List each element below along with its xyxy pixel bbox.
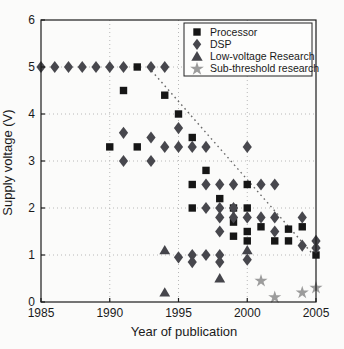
y-tick-label: 0 [28,295,35,309]
figure: 198519901995200020050123456ProcessorDSPL… [0,0,344,349]
x-tick-label: 1990 [96,306,123,320]
legend-label-low-voltage-research: Low-voltage Research [210,50,315,62]
legend: ProcessorDSPLow-voltage ResearchSub-thre… [184,23,319,76]
series-sub-threshold-research [254,274,322,303]
y-tick-label: 1 [28,248,35,262]
y-tick-label: 2 [28,201,35,215]
legend-label-processor: Processor [210,26,258,38]
y-tick-label: 4 [28,107,35,121]
legend-label-sub-threshold-research: Sub-threshold research [210,62,319,74]
y-tick-label: 6 [28,13,35,27]
y-tick-label: 3 [28,154,35,168]
x-tick-label: 2000 [234,306,261,320]
x-tick-label: 1995 [165,306,192,320]
x-tick-label: 2005 [303,306,330,320]
x-axis-label: Year of publication [0,324,344,339]
chart-canvas: 198519901995200020050123456ProcessorDSPL… [0,0,344,349]
y-tick-label: 5 [28,60,35,74]
y-axis-label: Supply voltage (V) [0,93,15,233]
series-processor [106,63,320,258]
legend-label-dsp: DSP [210,38,232,50]
